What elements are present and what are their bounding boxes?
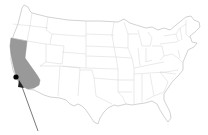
location-marker-dot <box>13 74 18 79</box>
state-california <box>10 38 40 89</box>
state-borders <box>12 13 190 104</box>
us-outline <box>11 5 200 124</box>
us-map <box>0 0 208 135</box>
